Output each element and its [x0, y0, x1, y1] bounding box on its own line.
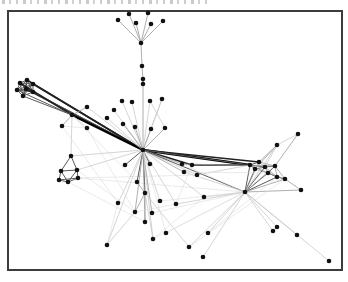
graph-edge	[245, 192, 277, 227]
graph-edge	[143, 128, 165, 150]
graph-node	[201, 255, 206, 260]
graph-node	[112, 108, 117, 113]
graph-node	[160, 97, 165, 102]
graph-node	[70, 113, 75, 118]
graph-edge	[61, 156, 71, 171]
graph-node	[85, 126, 90, 131]
graph-node	[273, 164, 278, 169]
graph-node	[283, 177, 288, 182]
graph-edge	[245, 190, 301, 192]
graph-edge	[141, 24, 151, 43]
graph-node	[121, 122, 126, 127]
graph-node	[15, 88, 20, 93]
graph-node	[69, 154, 74, 159]
graph-node	[141, 82, 146, 87]
graph-node	[295, 233, 300, 238]
graph-edge	[152, 192, 245, 213]
graph-edge	[61, 170, 77, 171]
graph-edge	[33, 84, 143, 150]
graph-node	[18, 81, 23, 86]
graph-node	[127, 12, 132, 17]
graph-edge	[141, 13, 148, 43]
graph-node	[158, 199, 163, 204]
graph-edge	[203, 192, 245, 257]
graph-node	[257, 160, 262, 165]
graph-edge	[150, 101, 165, 128]
nodes-layer	[15, 11, 332, 264]
graph-edge	[143, 101, 150, 150]
graph-node	[275, 225, 280, 230]
graph-node	[182, 170, 187, 175]
graph-node	[105, 243, 110, 248]
graph-edge	[129, 14, 141, 43]
graph-node	[59, 169, 64, 174]
graph-node	[146, 11, 151, 16]
graph-node	[148, 99, 153, 104]
graph-node	[25, 78, 30, 83]
graph-node	[141, 148, 146, 153]
graph-node	[206, 231, 211, 236]
graph-edge	[23, 96, 72, 115]
graph-edge	[245, 179, 285, 192]
graph-node	[243, 190, 248, 195]
graph-node	[275, 143, 280, 148]
graph-node	[21, 94, 26, 99]
graph-edge	[285, 179, 301, 190]
network-graph	[0, 0, 348, 282]
graph-node	[180, 162, 185, 167]
graph-edge	[197, 165, 250, 175]
graph-node	[195, 173, 200, 178]
graph-node	[248, 163, 253, 168]
graph-node	[76, 176, 81, 181]
graph-edge	[62, 126, 118, 203]
graph-node	[143, 191, 148, 196]
graph-node	[133, 125, 138, 130]
graph-node	[266, 171, 271, 176]
graph-node	[60, 124, 65, 129]
graph-node	[299, 188, 304, 193]
graph-node	[120, 99, 125, 104]
graph-node	[174, 202, 179, 207]
graph-node	[148, 162, 153, 167]
graph-node	[123, 163, 128, 168]
graph-node	[164, 231, 169, 236]
graph-node	[134, 21, 139, 26]
graph-edge	[71, 115, 72, 156]
graph-node	[149, 127, 154, 132]
graph-edge	[275, 134, 298, 166]
screenshot-root	[0, 0, 348, 282]
graph-node	[275, 175, 280, 180]
graph-node	[151, 237, 156, 242]
graph-edge	[277, 134, 298, 145]
graph-node	[296, 132, 301, 137]
graph-edge	[141, 43, 142, 66]
graph-node	[66, 180, 71, 185]
graph-node	[163, 126, 168, 131]
graph-edge	[135, 204, 176, 212]
graph-edge	[245, 192, 329, 261]
graph-node	[202, 195, 207, 200]
graph-node	[253, 167, 258, 172]
graph-node	[141, 77, 146, 82]
graph-node	[116, 18, 121, 23]
graph-edge	[145, 193, 153, 239]
graph-node	[149, 22, 154, 27]
graph-node	[271, 229, 276, 234]
graph-node	[161, 19, 166, 24]
graph-node	[31, 82, 36, 87]
graph-edge	[68, 182, 145, 222]
edges-layer	[17, 13, 329, 261]
graph-node	[85, 105, 90, 110]
graph-node	[135, 180, 140, 185]
graph-node	[140, 64, 145, 69]
graph-node	[116, 201, 121, 206]
graph-node	[263, 165, 268, 170]
graph-node	[75, 168, 80, 173]
graph-node	[143, 220, 148, 225]
graph-node	[150, 211, 155, 216]
graph-node	[190, 163, 195, 168]
graph-node	[57, 178, 62, 183]
graph-edge	[72, 115, 137, 182]
graph-edge	[72, 115, 143, 150]
graph-node	[139, 41, 144, 46]
